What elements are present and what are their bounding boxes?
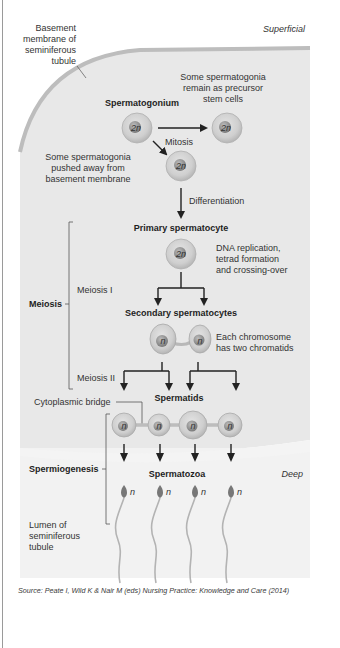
- svg-text:2n: 2n: [220, 123, 231, 133]
- svg-text:Some spermatogonia: Some spermatogonia: [180, 72, 266, 82]
- svg-text:n: n: [190, 421, 195, 431]
- svg-text:n: n: [227, 421, 232, 431]
- svg-text:Lumen of: Lumen of: [29, 520, 67, 530]
- svg-text:2n: 2n: [175, 161, 186, 171]
- svg-text:seminiferous: seminiferous: [25, 45, 77, 55]
- svg-text:n: n: [121, 421, 126, 431]
- spermiogenesis-label: Spermiogenesis: [29, 464, 99, 474]
- svg-text:n: n: [197, 336, 202, 346]
- dna-replication-note: DNA replication, tetrad formation and cr…: [216, 243, 288, 275]
- primary-spermatocyte-cell: 2n: [166, 239, 196, 269]
- svg-text:2n: 2n: [130, 123, 141, 133]
- svg-text:tubule: tubule: [29, 542, 54, 552]
- pushed-away-note: Some spermatogonia pushed away from base…: [45, 152, 131, 184]
- meiosis-label: Meiosis: [29, 299, 62, 309]
- svg-text:n: n: [160, 336, 165, 346]
- spermatozoa-label: Spermatozoa: [149, 469, 207, 479]
- superficial-label: Superficial: [263, 24, 306, 34]
- svg-text:remain as precursor: remain as precursor: [183, 83, 263, 93]
- svg-text:Some spermatogonia: Some spermatogonia: [45, 152, 131, 162]
- svg-text:seminiferous: seminiferous: [29, 531, 81, 541]
- pushed-spermatogonium-cell: 2n: [166, 151, 196, 181]
- mitosis-label: Mitosis: [165, 137, 194, 147]
- spermatogonium-label: Spermatogonium: [105, 98, 179, 108]
- differentiation-label: Differentiation: [189, 196, 244, 206]
- svg-text:basement membrane: basement membrane: [45, 174, 130, 184]
- secondary-spermatocytes-label: Secondary spermatocytes: [125, 308, 237, 318]
- svg-text:tetrad formation: tetrad formation: [216, 254, 279, 264]
- svg-text:DNA replication,: DNA replication,: [216, 243, 281, 253]
- chromatids-note: Each chromosome has two chromatids: [216, 332, 294, 353]
- svg-text:has two chromatids: has two chromatids: [216, 343, 294, 353]
- source-caption: Source: Peate I, Wild K & Nair M (eds) N…: [18, 586, 338, 595]
- spermatogonium-cell: 2n: [122, 113, 152, 143]
- svg-text:tubule: tubule: [51, 56, 76, 66]
- svg-text:Basement: Basement: [35, 23, 76, 33]
- svg-text:and crossing-over: and crossing-over: [216, 265, 288, 275]
- primary-spermatocyte-label: Primary spermatocyte: [134, 223, 229, 233]
- svg-text:n: n: [201, 487, 206, 497]
- spermatids-label: Spermatids: [154, 393, 203, 403]
- stem-cell: 2n: [212, 113, 242, 143]
- svg-text:2n: 2n: [175, 249, 186, 259]
- spermatogenesis-diagram: Basement membrane of seminiferous tubule…: [0, 0, 340, 648]
- cytoplasmic-bridge-label: Cytoplasmic bridge: [34, 397, 111, 407]
- svg-text:n: n: [156, 421, 161, 431]
- svg-text:stem cells: stem cells: [203, 94, 244, 104]
- svg-text:Each chromosome: Each chromosome: [216, 332, 291, 342]
- meiosis-i-label: Meiosis I: [77, 285, 113, 295]
- meiosis-ii-label: Meiosis II: [77, 373, 115, 383]
- svg-text:n: n: [166, 487, 171, 497]
- svg-text:n: n: [237, 487, 242, 497]
- svg-text:membrane of: membrane of: [23, 34, 77, 44]
- basement-membrane-label: Basement membrane of seminiferous tubule: [23, 23, 77, 66]
- svg-text:n: n: [130, 487, 135, 497]
- deep-label: Deep: [281, 469, 303, 479]
- svg-text:pushed away from: pushed away from: [51, 163, 125, 173]
